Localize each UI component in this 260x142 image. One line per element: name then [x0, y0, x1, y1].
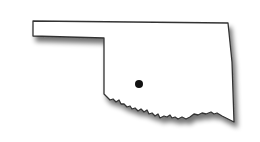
state-outline: [33, 21, 234, 122]
state-map: [0, 0, 260, 142]
location-marker: [135, 80, 143, 88]
